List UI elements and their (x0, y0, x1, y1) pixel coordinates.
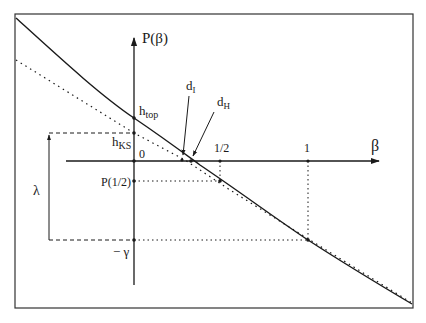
x-axis-label: β (371, 137, 379, 155)
d-h-label: dH (217, 94, 231, 111)
point-minus-gamma (132, 238, 136, 242)
h-top-label: htop (139, 103, 158, 120)
lambda-label: λ (33, 183, 40, 198)
p-half-label: P(1/2) (101, 175, 131, 189)
point-p-half (132, 179, 136, 183)
minus-gamma-label: − γ (113, 244, 130, 259)
point-origin (132, 159, 136, 163)
h-ks-label: hKS (112, 134, 131, 151)
x-tick-0: 0 (139, 147, 145, 161)
x-tick-1: 1 (304, 141, 310, 155)
tangent-line-dotted (16, 60, 412, 303)
point-half-axis (218, 159, 221, 162)
point-one-axis (306, 159, 309, 162)
point-h-ks (132, 131, 136, 135)
d-i-pointer-arrow (183, 96, 189, 155)
x-tick-half: 1/2 (214, 141, 229, 155)
y-axis-label: P(β) (142, 30, 168, 47)
d-h-pointer-arrow (193, 112, 214, 156)
diagram-canvas: P(β) β 0 1/2 1 htop hKS P(1/2) − γ λ dI … (0, 0, 426, 323)
point-d-h (189, 159, 193, 163)
point-d-i (180, 158, 183, 161)
point-h-top (132, 116, 136, 120)
point-half-curve (218, 179, 222, 183)
d-i-label: dI (186, 78, 196, 95)
point-one-curve (306, 238, 310, 242)
